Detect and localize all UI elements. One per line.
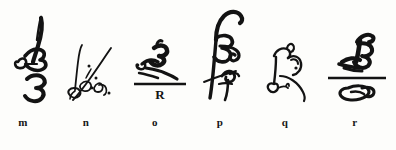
monogram-stroke-group-n — [68, 45, 111, 100]
monogram-stroke-group-r — [339, 35, 373, 71]
specimen-o: R — [126, 0, 194, 112]
monogram-stroke-group-q — [268, 44, 305, 101]
monogram-stroke-group-m — [15, 17, 46, 101]
caption-p: p — [210, 114, 230, 130]
specimen-n — [62, 0, 120, 112]
specimen-r — [322, 0, 392, 112]
caption-n: n — [76, 114, 96, 130]
caption-q: q — [275, 114, 295, 130]
specimen-q — [258, 0, 320, 112]
caption-r: r — [345, 114, 365, 130]
caption-o: o — [145, 114, 165, 130]
monogram-stroke-group-o — [137, 41, 177, 79]
specimen-plate: R — [0, 0, 396, 150]
caption-row: m n o p q r — [0, 114, 396, 142]
rule-letter-o: R — [155, 87, 165, 102]
specimen-p — [192, 0, 258, 112]
specimen-m — [8, 0, 68, 112]
paraph-flourish-r — [340, 86, 374, 100]
caption-m: m — [13, 114, 33, 130]
monogram-stroke-group-p — [204, 12, 242, 100]
